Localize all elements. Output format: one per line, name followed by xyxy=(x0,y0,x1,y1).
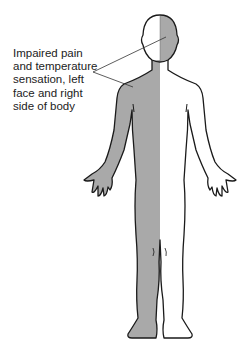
annotation-line: side of body xyxy=(13,100,97,113)
annotation-line: Impaired pain xyxy=(13,47,97,60)
annotation-line: sensation, left xyxy=(13,73,97,86)
annotation-line: and temperature xyxy=(13,60,97,73)
pointer-line-body xyxy=(93,72,133,87)
knee-mark xyxy=(165,248,166,256)
chest-mark-right xyxy=(186,104,187,112)
annotation-label: Impaired pain and temperature sensation,… xyxy=(13,47,97,113)
annotation-line: face and right xyxy=(13,87,97,100)
